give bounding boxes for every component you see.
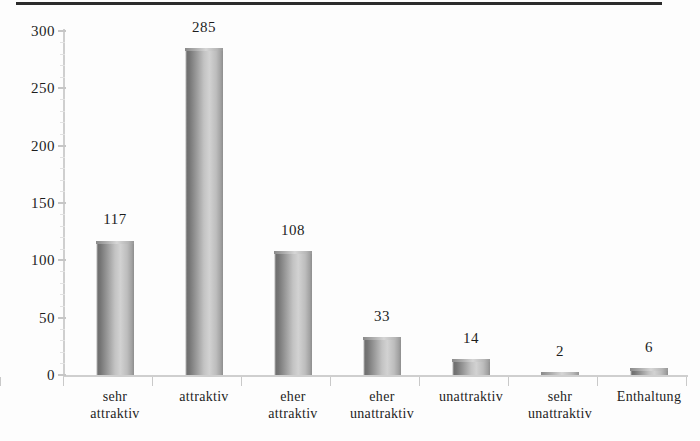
bar-value-label: 6 [620, 339, 678, 356]
y-minor-mark [60, 249, 65, 250]
cat-line-1: sehr [70, 388, 160, 405]
y-minor-mark [60, 65, 65, 66]
bar-top-cap [274, 251, 312, 254]
y-minor-mark [60, 306, 65, 307]
bar-enthaltung[interactable] [630, 368, 668, 376]
y-minor-mark [60, 363, 65, 364]
bar-top-cap [541, 372, 579, 375]
y-minor-mark [60, 111, 65, 112]
y-tick-mark-0 [58, 374, 66, 376]
y-minor-mark [60, 157, 65, 158]
y-minor-mark [60, 352, 65, 353]
y-minor-mark [60, 283, 65, 284]
x-tick-mark [686, 377, 687, 386]
x-category-label-attraktiv: attraktiv [159, 388, 249, 405]
y-minor-mark [60, 99, 65, 100]
x-tick-mark [63, 377, 64, 386]
cat-line-1: sehr [515, 388, 605, 405]
y-tick-mark-50 [58, 317, 66, 319]
y-minor-mark [60, 77, 65, 78]
bar-value-label: 33 [353, 308, 411, 325]
y-minor-mark [60, 271, 65, 272]
y-tick-label-200: 200 [0, 137, 55, 154]
bar-sehr-unattraktiv[interactable] [541, 372, 579, 375]
cat-line-1: attraktiv [159, 388, 249, 405]
cat-line-2: unattraktiv [337, 405, 427, 422]
y-tick-label-250: 250 [0, 80, 55, 97]
y-minor-mark [60, 42, 65, 43]
x-tick-mark [419, 377, 420, 386]
x-category-label-eher-unattraktiv: eher unattraktiv [337, 388, 427, 422]
bar-sehr-attraktiv[interactable] [96, 241, 134, 375]
y-minor-mark [60, 191, 65, 192]
x-tick-mark [241, 377, 242, 386]
y-minor-mark [60, 340, 65, 341]
cat-line-2: attraktiv [248, 405, 338, 422]
x-tick-mark [508, 377, 509, 386]
bar-value-label: 2 [531, 343, 589, 360]
x-category-label-eher-attraktiv: eher attraktiv [248, 388, 338, 422]
y-minor-mark [60, 180, 65, 181]
bar-value-label: 117 [86, 211, 144, 228]
bar-unattraktiv[interactable] [452, 359, 490, 375]
bar-attraktiv[interactable] [185, 48, 223, 375]
cat-line-1: Enthaltung [604, 388, 694, 405]
x-category-label-unattraktiv: unattraktiv [426, 388, 516, 405]
bar-top-cap [452, 359, 490, 362]
y-tick-mark-250 [58, 87, 66, 89]
bar-chart-figure: 0 50 100 150 200 250 300 [0, 0, 700, 441]
x-axis-line [63, 375, 688, 377]
y-tick-label-300: 300 [0, 23, 55, 40]
bar-top-cap [185, 48, 223, 51]
plot-area: 0 50 100 150 200 250 300 [0, 0, 700, 441]
x-tick-mark [330, 377, 331, 386]
cat-line-1: unattraktiv [426, 388, 516, 405]
x-category-label-sehr-unattraktiv: sehr unattraktiv [515, 388, 605, 422]
x-category-label-sehr-attraktiv: sehr attraktiv [70, 388, 160, 422]
y-minor-mark [60, 214, 65, 215]
x-tick-mark [597, 377, 598, 386]
y-tick-label-50: 50 [0, 309, 55, 326]
y-tick-mark-200 [58, 145, 66, 147]
bar-value-label: 14 [442, 330, 500, 347]
bar-eher-attraktiv[interactable] [274, 251, 312, 375]
bar-top-cap [363, 337, 401, 340]
y-minor-mark [60, 122, 65, 123]
y-minor-mark [60, 168, 65, 169]
cat-line-2: unattraktiv [515, 405, 605, 422]
y-tick-label-100: 100 [0, 252, 55, 269]
x-category-label-enthaltung: Enthaltung [604, 388, 694, 405]
y-tick-label-150: 150 [0, 195, 55, 212]
y-tick-label-0: 0 [0, 367, 55, 384]
y-tick-mark-100 [58, 259, 66, 261]
y-minor-mark [60, 134, 65, 135]
cat-line-1: eher [248, 388, 338, 405]
bar-top-cap [96, 241, 134, 244]
bar-value-label: 108 [264, 222, 322, 239]
y-tick-mark-150 [58, 202, 66, 204]
y-minor-mark [60, 237, 65, 238]
cat-line-2: attraktiv [70, 405, 160, 422]
y-tick-mark-300 [58, 30, 66, 32]
y-minor-mark [60, 329, 65, 330]
y-minor-mark [60, 226, 65, 227]
bar-eher-unattraktiv[interactable] [363, 337, 401, 375]
cat-line-1: eher [337, 388, 427, 405]
bar-top-cap [630, 368, 668, 371]
y-minor-mark [60, 54, 65, 55]
x-tick-mark [152, 377, 153, 386]
y-minor-mark [60, 294, 65, 295]
bar-value-label: 285 [175, 19, 233, 36]
